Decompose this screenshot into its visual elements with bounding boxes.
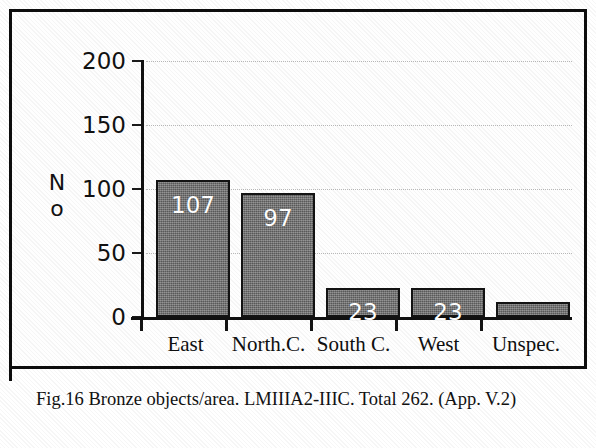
ytick-mark-200 [132, 60, 141, 62]
xtick-mark-0 [140, 320, 143, 331]
gridline-200 [146, 61, 572, 63]
figure-page: No 200 150 100 50 0 107 97 23 [0, 0, 596, 448]
xtick-mark-2 [310, 320, 313, 331]
xtick-label-unspec: Unspec. [481, 332, 571, 356]
bar-value-east: 107 [158, 194, 228, 217]
ytick-mark-150 [132, 124, 141, 126]
bar-west[interactable]: 23 [411, 288, 485, 317]
frame-left-rule [9, 369, 12, 381]
xtick-label-north-c: North.C. [226, 332, 311, 356]
bar-east[interactable]: 107 [156, 180, 230, 317]
ytick-label-150: 150 [54, 114, 126, 137]
xtick-mark-1 [225, 320, 228, 331]
ytick-label-100: 100 [54, 178, 126, 201]
bar-value-west: 23 [413, 301, 483, 324]
xtick-mark-4 [480, 320, 483, 331]
bar-unspec[interactable] [496, 302, 570, 317]
bar-north-c[interactable]: 97 [241, 193, 315, 317]
ytick-label-50: 50 [54, 242, 126, 265]
ytick-label-200: 200 [54, 50, 126, 73]
bar-south-c[interactable]: 23 [326, 288, 400, 317]
y-axis-line [141, 60, 144, 319]
xtick-mark-3 [395, 320, 398, 331]
figure-caption: Fig.16 Bronze objects/area. LMIIIA2-IIIC… [36, 387, 516, 411]
ytick-mark-50 [132, 252, 141, 254]
gridline-150 [146, 125, 572, 127]
xtick-label-south-c: South C. [311, 332, 396, 356]
ytick-mark-100 [132, 188, 141, 190]
bar-value-north-c: 97 [243, 207, 313, 230]
ytick-label-0: 0 [54, 306, 126, 329]
bar-value-south-c: 23 [328, 301, 398, 324]
xtick-label-west: West [396, 332, 481, 356]
bar-chart: No 200 150 100 50 0 107 97 23 [0, 0, 596, 360]
xtick-label-east: East [143, 332, 228, 356]
